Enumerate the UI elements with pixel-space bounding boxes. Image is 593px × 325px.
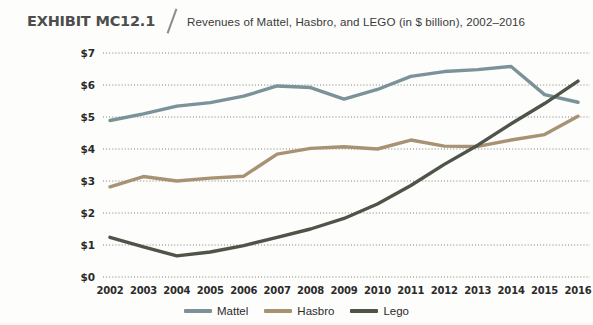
y-axis-tick-label: $6 [69,79,95,91]
y-axis-tick-label: $0 [69,271,95,283]
legend-label: Lego [383,305,409,317]
x-axis-tick-label: 2002 [93,285,127,296]
exhibit-title: Revenues of Mattel, Hasbro, and LEGO (in… [187,15,525,28]
legend-label: Mattel [217,305,248,317]
x-axis-tick-label: 2010 [360,285,394,296]
chart-legend: MattelHasbroLego [0,305,593,317]
gridlines-group [103,53,590,277]
exhibit-page: EXHIBIT MC12.1 Revenues of Mattel, Hasbr… [0,0,593,325]
x-axis-tick-label: 2009 [327,285,361,296]
series-line-mattel [110,66,578,120]
y-axis-tick-label: $5 [69,111,95,123]
x-axis-tick-label: 2003 [126,285,160,296]
x-axis-tick-label: 2007 [260,285,294,296]
legend-swatch-lego [350,309,378,314]
x-axis-tick-label: 2008 [294,285,328,296]
legend-label: Hasbro [297,305,334,317]
x-axis-tick-label: 2016 [561,285,593,296]
x-axis-tick-label: 2004 [160,285,194,296]
x-axis-tick-label: 2012 [427,285,461,296]
exhibit-number-label: EXHIBIT MC12.1 [27,13,155,29]
slash-divider-icon [164,8,180,34]
series-lines-group [110,66,578,255]
x-axis-tick-label: 2014 [494,285,528,296]
x-axis-tick-label: 2011 [394,285,428,296]
legend-item-hasbro[interactable]: Hasbro [264,305,334,317]
legend-swatch-mattel [184,309,212,314]
legend-swatch-hasbro [264,309,292,314]
x-axis-tick-label: 2013 [461,285,495,296]
x-axis-tick-label: 2006 [227,285,261,296]
x-axis-tick-label: 2015 [528,285,562,296]
chart-container: $0$1$2$3$4$5$6$7 20022003200420052006200… [0,42,593,325]
y-axis-tick-label: $7 [69,47,95,59]
legend-item-lego[interactable]: Lego [350,305,409,317]
exhibit-header: EXHIBIT MC12.1 Revenues of Mattel, Hasbr… [0,0,593,42]
y-axis-tick-label: $4 [69,143,95,155]
legend-item-mattel[interactable]: Mattel [184,305,248,317]
y-axis-tick-label: $3 [69,175,95,187]
x-axis-tick-label: 2005 [193,285,227,296]
y-axis-tick-label: $2 [69,207,95,219]
y-axis-tick-label: $1 [69,239,95,251]
